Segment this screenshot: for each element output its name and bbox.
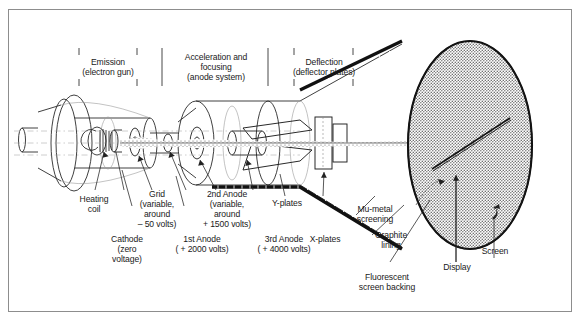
section-label-deflection: Deflection (deflector plates): [276, 57, 372, 77]
callout-fluorescent-screen-backing: Fluorescent screen backing: [330, 272, 444, 292]
callout-screen: Screen: [468, 246, 522, 256]
callout-cathode: Cathode (zero voltage): [94, 234, 160, 264]
callout-x-plates: X-plates: [298, 234, 352, 244]
diagram-artwork: [0, 0, 582, 322]
callout-heating-coil: Heating coil: [62, 194, 126, 214]
callout-first-anode: 1st Anode ( + 2000 volts): [163, 234, 241, 254]
callout-display: Display: [430, 262, 484, 272]
section-label-acceleration: Acceleration and focusing (anode system): [168, 52, 264, 82]
section-label-emission: Emission (electron gun): [58, 57, 158, 77]
crt-diagram-figure: Emission (electron gun) Acceleration and…: [0, 0, 582, 322]
callout-mu-metal-screening: Mu-metal screening: [344, 204, 406, 224]
callout-grid: Grid (variable, around – 50 volts): [126, 189, 188, 229]
callout-graphite-lining: Graphite lining: [362, 230, 420, 250]
callout-second-anode: 2nd Anode (variable, around + 1500 volts…: [190, 189, 264, 229]
callout-y-plates: Y-plates: [259, 198, 315, 208]
